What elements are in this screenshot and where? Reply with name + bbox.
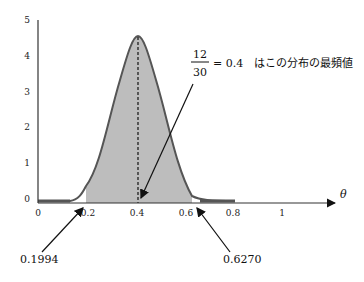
x-axis-label: θ (340, 188, 347, 201)
lower-bound-label: 0.1994 (20, 253, 59, 266)
y-tick: 2 (24, 122, 30, 132)
x-tick: 0.2 (81, 208, 95, 218)
annotation-equals: = 0.4 (213, 57, 243, 70)
annotation-frac-den: 30 (193, 66, 207, 79)
x-tick: 0 (35, 208, 41, 218)
x-tick: 0.4 (130, 208, 145, 218)
y-tick: 1 (24, 158, 30, 168)
shaded-credible-interval (86, 36, 192, 203)
y-tick: 5 (24, 15, 30, 25)
beta-density-chart: 5 4 3 2 1 0 0 0.2 0.4 0.6 0.8 1 θ 12 30 … (0, 0, 364, 282)
x-tick: 0.6 (179, 208, 194, 218)
y-tick: 0 (24, 194, 30, 204)
y-tick: 4 (24, 51, 30, 61)
annotation-japanese: はこの分布の最頻値 (254, 56, 353, 70)
y-tick: 3 (24, 87, 30, 97)
upper-bound-label: 0.6270 (223, 253, 262, 266)
annotation-frac-num: 12 (193, 48, 207, 61)
x-tick: 0.8 (226, 208, 241, 218)
x-tick: 1 (279, 208, 285, 218)
lower-bound-arrow (42, 208, 83, 252)
